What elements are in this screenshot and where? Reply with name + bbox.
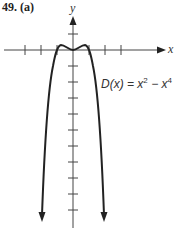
y-axis-label: y xyxy=(69,1,76,15)
legend-mid: − x xyxy=(148,77,168,91)
curve-right-arrow-icon xyxy=(101,212,108,222)
legend-prefix: D(x) = x xyxy=(101,77,143,91)
graph: x y xyxy=(0,0,175,231)
x-axis-label: x xyxy=(167,42,174,56)
y-axis-arrow-icon xyxy=(70,16,77,25)
function-legend: D(x) = x2 − x4 xyxy=(101,76,172,91)
legend-exponent-2: 4 xyxy=(167,76,171,85)
x-axis-arrow-icon xyxy=(157,47,166,54)
curve-left-arrow-icon xyxy=(39,212,46,222)
